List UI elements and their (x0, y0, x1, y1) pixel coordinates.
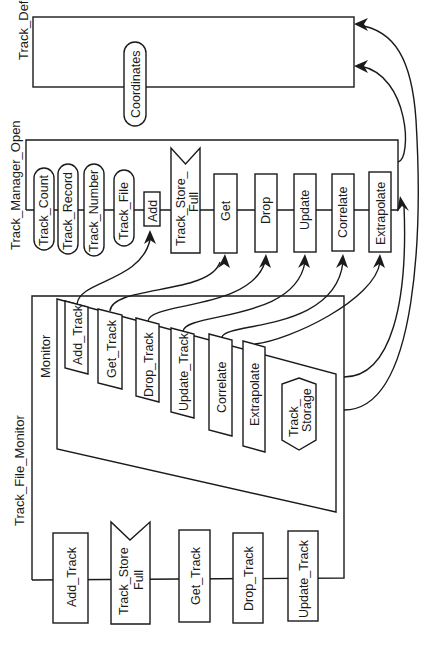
add-operation-label: Add (146, 200, 160, 222)
track-storage-line1: Track_ (287, 398, 301, 437)
track-store-full-line2: Full (187, 192, 201, 212)
track-count-label: Track_Count (37, 174, 51, 246)
monitor-task-title: Monitor (38, 334, 53, 378)
conn-get-track-to-get (110, 262, 220, 311)
get-track-operation-label: Get_Track (189, 546, 203, 605)
monitor-entry-correlate-label: Correlate (215, 362, 229, 413)
get-operation-label: Get (219, 200, 233, 221)
track-record-label: Track_Record (61, 172, 75, 250)
monitor-entry-drop-track-label: Drop_Track (142, 331, 156, 397)
package-track-defs: Track_Defs Coordinates (16, 0, 354, 126)
track-number-label: Track_Number (87, 170, 101, 252)
track-store-full-2-line1: Track_Store (117, 547, 131, 615)
add-track-operation-label: Add_Track (65, 546, 79, 607)
package-track-manager-open: Track_Manager_Open Track_Count Track_Rec… (8, 120, 398, 256)
package-track-file-monitor: Track_File_Monitor Monitor Add_Track Get… (12, 296, 344, 624)
track-defs-title: Track_Defs (16, 0, 31, 60)
track-store-full-line1: Track_Store_ (174, 170, 188, 246)
track-file-label: Track_File (117, 182, 131, 240)
update-track-operation-label: Update_Track (297, 539, 311, 618)
track-file-monitor-title: Track_File_Monitor (12, 415, 27, 526)
conn-extrapolate-to-extrapolate (255, 262, 380, 344)
conn-drop-track-to-drop (148, 262, 265, 321)
monitor-entry-get-track-label: Get_Track (105, 319, 119, 378)
arrowhead-get (218, 254, 230, 268)
track-store-full-2-line2: Full (132, 570, 146, 590)
monitor-entry-extrapolate-label: Extrapolate (248, 363, 262, 426)
arrowhead-manager (397, 196, 409, 212)
monitor-entry-add-track-label: Add_Track (71, 304, 85, 365)
arrowhead-track-defs-mid (354, 60, 368, 73)
drop-track-operation-label: Drop_Track (242, 545, 256, 611)
track-defs-box (33, 17, 354, 87)
drop-operation-label: Drop (259, 197, 273, 224)
extrapolate-operation-label: Extrapolate (374, 182, 388, 245)
correlate-operation-label: Correlate (336, 187, 350, 238)
track-storage-line2: Storage (300, 388, 314, 432)
track-manager-open-title: Track_Manager_Open (8, 120, 23, 250)
arrowhead-drop (259, 254, 271, 268)
arrowhead-track-defs-top (354, 18, 368, 31)
coordinates-label: Coordinates (129, 51, 143, 118)
conn-correlate-to-correlate (222, 262, 343, 337)
monitor-entry-update-track-label: Update_Track (177, 332, 191, 411)
diagram-canvas: Track_Defs Coordinates Track_Manager_Ope… (0, 0, 425, 670)
update-operation-label: Update (298, 190, 312, 230)
